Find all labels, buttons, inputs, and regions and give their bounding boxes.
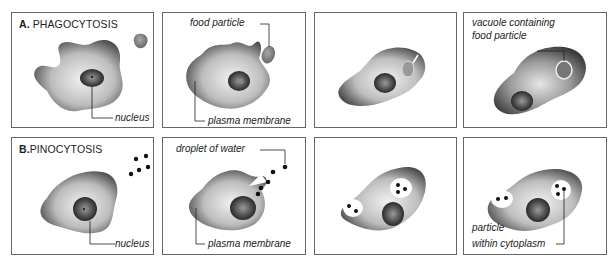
label-droplet-of-water: droplet of water bbox=[176, 143, 245, 154]
panel-phagocytosis-2: food particle plasma membrane bbox=[162, 12, 306, 128]
label-plasma-membrane: plasma membrane bbox=[208, 115, 291, 126]
cell-illustration bbox=[315, 13, 458, 129]
panel-pinocytosis-2: droplet of water plasma membrane bbox=[162, 137, 306, 255]
nucleus-icon bbox=[511, 91, 533, 111]
vacuole-icon bbox=[491, 190, 513, 208]
cell-body bbox=[494, 47, 586, 115]
cell-body bbox=[34, 40, 123, 111]
panel-phagocytosis-1: A. PHAGOCYTOSIS nucleus bbox=[11, 12, 154, 128]
row-title-pinocytosis: B.PINOCYTOSIS bbox=[19, 143, 102, 155]
label-food-particle: food particle bbox=[190, 17, 244, 28]
panel-pinocytosis-1: B.PINOCYTOSIS nucleus bbox=[11, 137, 154, 255]
panel-pinocytosis-3 bbox=[314, 137, 457, 255]
vacuole-icon bbox=[343, 199, 363, 217]
water-droplets-icon bbox=[129, 154, 150, 176]
panel-pinocytosis-4: particle within cytoplasm bbox=[463, 137, 607, 255]
label-particle-line1: particle bbox=[472, 222, 504, 233]
food-particle-engulfing-icon bbox=[402, 61, 414, 77]
label-nucleus: nucleus bbox=[115, 112, 149, 123]
vacuole-icon bbox=[556, 61, 572, 79]
label-plasma-membrane: plasma membrane bbox=[208, 238, 291, 249]
vacuole-icon bbox=[551, 180, 571, 200]
panel-phagocytosis-3 bbox=[314, 12, 457, 128]
panel-phagocytosis-4: vacuole containing food particle bbox=[463, 12, 607, 128]
nucleus-icon bbox=[526, 198, 550, 222]
label-nucleus: nucleus bbox=[115, 238, 149, 249]
cell-body bbox=[341, 167, 426, 230]
cell-body bbox=[189, 170, 267, 230]
cell-body bbox=[186, 41, 270, 108]
label-vacuole-line1: vacuole containing bbox=[472, 17, 555, 28]
label-vacuole-line2: food particle bbox=[472, 30, 526, 41]
cell-illustration bbox=[315, 138, 458, 256]
nucleus-icon bbox=[230, 196, 256, 220]
vacuole-icon bbox=[390, 178, 412, 198]
nucleus-icon bbox=[382, 202, 404, 226]
label-particle-line2: within cytoplasm bbox=[472, 238, 545, 249]
row-title-phagocytosis: A. PHAGOCYTOSIS bbox=[19, 18, 118, 30]
food-particle-icon bbox=[134, 34, 148, 49]
nucleus-icon bbox=[374, 73, 396, 93]
cell-illustration bbox=[163, 13, 307, 129]
food-particle-icon bbox=[262, 46, 276, 64]
